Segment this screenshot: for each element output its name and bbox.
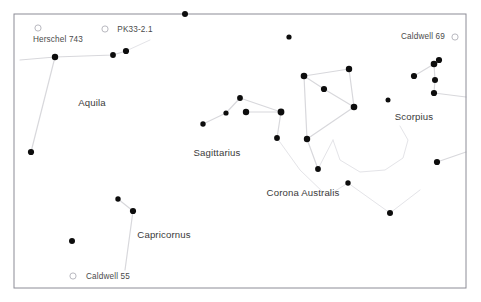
constellation-label-aquila: Aquila (78, 97, 106, 108)
star-point (223, 110, 228, 115)
star-chart-canvas: AquilaSagittariusCapricornusCorona Austr… (0, 0, 481, 302)
star-point (315, 166, 321, 172)
star-map-svg: AquilaSagittariusCapricornusCorona Austr… (0, 0, 481, 302)
star-point (286, 34, 291, 39)
star-point (130, 208, 136, 214)
star-point (110, 52, 116, 58)
star-point (431, 61, 438, 68)
star-point (304, 136, 310, 142)
constellation-label-corona-australis: Corona Australis (267, 187, 340, 198)
star-point (432, 77, 438, 83)
star-point (278, 109, 285, 116)
star-point (431, 90, 437, 96)
constellation-label-sagittarius: Sagittarius (194, 147, 241, 158)
star-point (386, 98, 391, 103)
star-point (237, 95, 243, 101)
dso-label-caldwell-55: Caldwell 55 (86, 272, 130, 281)
star-point (52, 54, 58, 60)
dso-label-caldwell-69: Caldwell 69 (401, 32, 445, 41)
star-point (321, 86, 327, 92)
star-point (345, 180, 350, 185)
star-point (243, 109, 249, 115)
constellation-label-capricornus: Capricornus (137, 229, 190, 240)
star-point (115, 196, 120, 201)
star-point (301, 73, 308, 80)
constellation-label-scorpius: Scorpius (395, 111, 434, 122)
chart-background (0, 0, 481, 302)
star-point (436, 57, 442, 63)
star-point (28, 149, 34, 155)
star-point (182, 11, 188, 17)
star-point (274, 135, 280, 141)
star-point (123, 48, 129, 54)
star-point (434, 159, 440, 165)
dso-label-pk33-2-1: PK33-2.1 (117, 25, 153, 34)
star-point (351, 104, 358, 111)
star-point (387, 210, 393, 216)
star-point (69, 238, 75, 244)
star-point (346, 66, 352, 72)
dso-label-herschel-743: Herschel 743 (33, 35, 83, 44)
star-point (200, 121, 205, 126)
star-point (411, 73, 417, 79)
